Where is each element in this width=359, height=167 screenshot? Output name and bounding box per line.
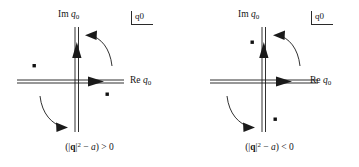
contour-arrow-up-left-panel — [72, 42, 81, 58]
im-variable-subscript: 0 — [256, 13, 260, 21]
imaginary-axis-label-right: Im q0 — [238, 10, 259, 21]
caption-relation: < 0 — [281, 142, 293, 152]
corner-tag-left: q0 — [135, 12, 144, 21]
corner-tag-subscript: 0 — [140, 11, 145, 21]
im-variable-subscript: 0 — [76, 13, 80, 21]
pole-lower-right-left-panel — [106, 93, 109, 96]
contour-arrow-right-left-panel — [88, 77, 104, 87]
rotation-arrow-lower-right-panel — [227, 96, 255, 132]
re-variable-subscript: 0 — [328, 79, 332, 87]
pole-lower-right-right-panel — [274, 118, 277, 121]
real-axis-right — [210, 80, 318, 83]
panel-right: Im q0 Re q0 q0 (|q|2 − a) < 0 — [180, 0, 359, 167]
contour-arrow-up-right-panel — [259, 42, 268, 58]
im-text: Im — [58, 9, 69, 19]
corner-bracket-vertical — [131, 11, 132, 24]
corner-tag-subscript: 0 — [320, 11, 325, 21]
caption-right: (|q|2 − a) < 0 — [180, 142, 359, 153]
corner-bracket-horizontal — [311, 24, 333, 25]
real-axis-label-right: Re q0 — [310, 76, 331, 87]
pole-upper-left-right-panel — [251, 41, 254, 44]
corner-tag-right: q0 — [315, 12, 324, 21]
real-axis-label-left: Re q0 — [130, 76, 151, 87]
caption-left: (|q|2 − a) > 0 — [0, 142, 179, 153]
caption-minus: − — [81, 142, 91, 152]
imaginary-axis-label-left: Im q0 — [58, 10, 79, 21]
re-text: Re — [130, 75, 141, 85]
caption-relation: > 0 — [101, 142, 113, 152]
corner-bracket-vertical — [311, 11, 312, 24]
rotation-arrow-upper-right-panel — [273, 31, 300, 67]
re-text: Re — [310, 75, 321, 85]
re-variable-subscript: 0 — [148, 79, 152, 87]
rotation-arrow-lower-left-panel — [40, 96, 68, 132]
real-axis-left — [17, 80, 124, 83]
pole-upper-left-left-panel — [33, 64, 36, 67]
im-text: Im — [238, 9, 249, 19]
corner-bracket-horizontal — [131, 24, 153, 25]
panel-left: Im q0 Re q0 q0 (|q|2 − a) > 0 — [0, 0, 179, 167]
rotation-arrow-upper-left-panel — [85, 31, 112, 67]
contour-arrow-right-right-panel — [276, 77, 292, 87]
caption-minus: − — [261, 142, 271, 152]
complex-plane-figure: Im q0 Re q0 q0 (|q|2 − a) > 0 — [0, 0, 359, 167]
